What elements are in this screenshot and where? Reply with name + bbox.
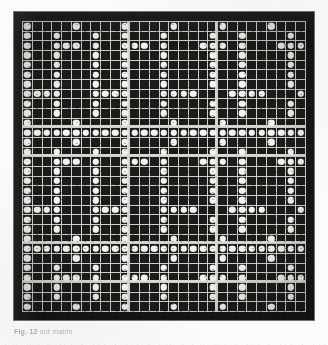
grid-cell-r25-c24[interactable] <box>257 264 266 273</box>
grid-cell-r1-c22[interactable] <box>238 32 247 41</box>
grid-cell-r23-c25[interactable] <box>267 244 276 253</box>
grid-cell-r26-c5[interactable] <box>72 273 81 282</box>
grid-cell-r3-c14[interactable] <box>160 51 169 60</box>
grid-cell-r2-c10[interactable] <box>121 41 130 50</box>
grid-cell-r22-c26[interactable] <box>277 235 286 244</box>
grid-cell-r11-c21[interactable] <box>228 128 237 137</box>
grid-cell-r23-c15[interactable] <box>169 244 178 253</box>
grid-cell-r14-c10[interactable] <box>121 157 130 166</box>
grid-cell-r26-c7[interactable] <box>91 273 100 282</box>
grid-cell-r24-c6[interactable] <box>82 254 91 263</box>
grid-cell-r1-c3[interactable] <box>52 32 61 41</box>
grid-cell-r20-c11[interactable] <box>130 215 139 224</box>
grid-cell-r29-c15[interactable] <box>169 302 178 311</box>
grid-cell-r20-c21[interactable] <box>228 215 237 224</box>
grid-cell-r10-c13[interactable] <box>150 119 159 128</box>
grid-cell-r12-c25[interactable] <box>267 138 276 147</box>
grid-cell-r24-c3[interactable] <box>52 254 61 263</box>
grid-cell-r26-c3[interactable] <box>52 273 61 282</box>
grid-cell-r25-c1[interactable] <box>33 264 42 273</box>
grid-cell-r21-c6[interactable] <box>82 225 91 234</box>
grid-cell-r23-c26[interactable] <box>277 244 286 253</box>
grid-cell-r19-c26[interactable] <box>277 206 286 215</box>
grid-cell-r8-c5[interactable] <box>72 99 81 108</box>
grid-cell-r21-c0[interactable] <box>23 225 32 234</box>
grid-cell-r18-c28[interactable] <box>296 196 305 205</box>
grid-cell-r20-c9[interactable] <box>111 215 120 224</box>
grid-cell-r1-c27[interactable] <box>286 32 295 41</box>
grid-cell-r29-c25[interactable] <box>267 302 276 311</box>
grid-cell-r2-c14[interactable] <box>160 41 169 50</box>
grid-cell-r24-c13[interactable] <box>150 254 159 263</box>
grid-cell-r3-c25[interactable] <box>267 51 276 60</box>
grid-cell-r25-c7[interactable] <box>91 264 100 273</box>
grid-cell-r23-c12[interactable] <box>140 244 149 253</box>
grid-cell-r2-c24[interactable] <box>257 41 266 50</box>
grid-cell-r2-c4[interactable] <box>62 41 71 50</box>
grid-cell-r24-c7[interactable] <box>91 254 100 263</box>
grid-cell-r15-c11[interactable] <box>130 167 139 176</box>
grid-cell-r24-c26[interactable] <box>277 254 286 263</box>
grid-cell-r18-c14[interactable] <box>160 196 169 205</box>
grid-cell-r7-c17[interactable] <box>189 90 198 99</box>
grid-cell-r17-c8[interactable] <box>101 186 110 195</box>
grid-cell-r12-c5[interactable] <box>72 138 81 147</box>
grid-cell-r11-c15[interactable] <box>169 128 178 137</box>
grid-cell-r19-c5[interactable] <box>72 206 81 215</box>
grid-cell-r0-c8[interactable] <box>101 22 110 31</box>
grid-cell-r16-c7[interactable] <box>91 177 100 186</box>
grid-cell-r24-c2[interactable] <box>43 254 52 263</box>
grid-cell-r5-c6[interactable] <box>82 70 91 79</box>
grid-cell-r11-c3[interactable] <box>52 128 61 137</box>
grid-cell-r7-c0[interactable] <box>23 90 32 99</box>
grid-cell-r6-c18[interactable] <box>199 80 208 89</box>
grid-cell-r0-c15[interactable] <box>169 22 178 31</box>
grid-cell-r26-c17[interactable] <box>189 273 198 282</box>
grid-cell-r25-c13[interactable] <box>150 264 159 273</box>
grid-cell-r7-c22[interactable] <box>238 90 247 99</box>
grid-cell-r13-c21[interactable] <box>228 148 237 157</box>
grid-cell-r26-c23[interactable] <box>247 273 256 282</box>
grid-cell-r10-c15[interactable] <box>169 119 178 128</box>
grid-cell-r4-c19[interactable] <box>208 61 217 70</box>
grid-cell-r24-c21[interactable] <box>228 254 237 263</box>
grid-cell-r21-c7[interactable] <box>91 225 100 234</box>
grid-cell-r6-c12[interactable] <box>140 80 149 89</box>
grid-cell-r8-c27[interactable] <box>286 99 295 108</box>
grid-cell-r0-c26[interactable] <box>277 22 286 31</box>
grid-cell-r26-c26[interactable] <box>277 273 286 282</box>
grid-cell-r8-c15[interactable] <box>169 99 178 108</box>
grid-cell-r17-c9[interactable] <box>111 186 120 195</box>
grid-cell-r26-c14[interactable] <box>160 273 169 282</box>
grid-cell-r2-c18[interactable] <box>199 41 208 50</box>
grid-cell-r9-c22[interactable] <box>238 109 247 118</box>
grid-cell-r12-c18[interactable] <box>199 138 208 147</box>
grid-cell-r18-c17[interactable] <box>189 196 198 205</box>
grid-cell-r8-c6[interactable] <box>82 99 91 108</box>
grid-cell-r21-c10[interactable] <box>121 225 130 234</box>
grid-cell-r24-c5[interactable] <box>72 254 81 263</box>
grid-cell-r26-c20[interactable] <box>218 273 227 282</box>
grid-cell-r23-c0[interactable] <box>23 244 32 253</box>
grid-cell-r23-c11[interactable] <box>130 244 139 253</box>
grid-cell-r4-c7[interactable] <box>91 61 100 70</box>
grid-cell-r22-c25[interactable] <box>267 235 276 244</box>
grid-cell-r17-c5[interactable] <box>72 186 81 195</box>
grid-cell-r23-c3[interactable] <box>52 244 61 253</box>
grid-cell-r19-c12[interactable] <box>140 206 149 215</box>
grid-cell-r13-c14[interactable] <box>160 148 169 157</box>
grid-cell-r26-c13[interactable] <box>150 273 159 282</box>
grid-cell-r24-c19[interactable] <box>208 254 217 263</box>
grid-cell-r23-c18[interactable] <box>199 244 208 253</box>
grid-cell-r22-c3[interactable] <box>52 235 61 244</box>
grid-cell-r22-c20[interactable] <box>218 235 227 244</box>
grid-cell-r13-c5[interactable] <box>72 148 81 157</box>
grid-cell-r1-c24[interactable] <box>257 32 266 41</box>
grid-cell-r22-c8[interactable] <box>101 235 110 244</box>
grid-cell-r13-c25[interactable] <box>267 148 276 157</box>
grid-cell-r2-c27[interactable] <box>286 41 295 50</box>
grid-cell-r13-c3[interactable] <box>52 148 61 157</box>
grid-cell-r17-c0[interactable] <box>23 186 32 195</box>
grid-cell-r12-c28[interactable] <box>296 138 305 147</box>
grid-cell-r29-c20[interactable] <box>218 302 227 311</box>
